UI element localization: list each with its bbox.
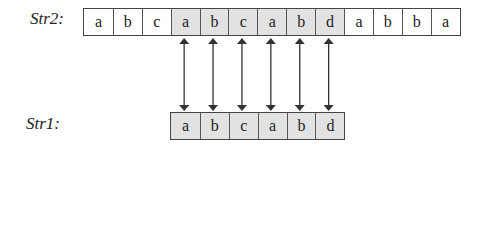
str1-cell: d [315,113,344,139]
str1-cell: b [287,113,316,139]
str1-row: abcabd [170,112,345,140]
str1-label: Str1: [26,114,60,134]
str1-cell: a [258,113,287,139]
str1-cell: c [229,113,258,139]
str1-cell: b [200,113,229,139]
str1-cell: a [171,113,200,139]
